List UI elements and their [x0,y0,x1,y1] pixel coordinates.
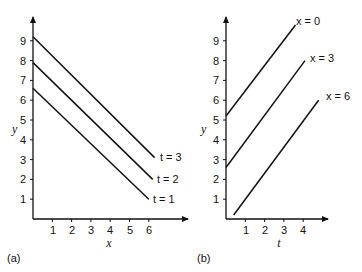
panel-a-x-tick-labels: 1 2 3 4 5 6 [50,224,152,236]
panel-b-line-label-x3: x = 3 [310,52,334,64]
tick-label: 2 [213,173,219,185]
tick-label: 9 [213,35,219,47]
tick-label: 3 [213,154,219,166]
panel-b-y-axis-label: y [200,122,207,136]
panel-b: 1 2 3 4 5 6 7 8 9 1 2 3 4 t y x = 0 x = [197,15,350,264]
panel-a-line-t2 [33,63,153,180]
tick-label: 1 [50,224,56,236]
tick-label: 3 [281,224,287,236]
panel-b-line-x6 [234,100,319,215]
tick-label: 2 [69,224,75,236]
figure: 1 2 3 4 5 6 7 8 9 1 2 3 4 5 6 x [0,0,362,272]
tick-label: 1 [20,193,26,205]
tick-label: 8 [213,55,219,67]
panel-b-line-x3 [226,61,305,168]
tick-label: 2 [20,173,26,185]
panel-a-line-label-t2: t = 2 [157,173,179,185]
tick-label: 3 [20,154,26,166]
panel-b-x-tick-labels: 1 2 3 4 [243,224,306,236]
panel-a-label: (a) [7,252,20,264]
tick-label: 3 [88,224,94,236]
tick-label: 6 [213,94,219,106]
panel-a-x-axis-label: x [105,236,112,250]
panel-b-line-label-x6: x = 6 [326,90,350,102]
tick-label: 1 [213,193,219,205]
panel-b-label: (b) [197,252,210,264]
tick-label: 4 [20,134,26,146]
tick-label: 4 [213,134,219,146]
tick-label: 9 [20,35,26,47]
tick-label: 6 [20,94,26,106]
panel-a-y-axis-label: y [11,122,18,136]
tick-label: 5 [20,114,26,126]
panel-a: 1 2 3 4 5 6 7 8 9 1 2 3 4 5 6 x [7,17,188,264]
tick-label: 4 [300,224,306,236]
panel-a-line-label-t1: t = 1 [153,193,175,205]
tick-label: 5 [213,114,219,126]
panel-a-y-tick-labels: 1 2 3 4 5 6 7 8 9 [20,35,26,206]
panel-a-line-t1 [33,88,149,199]
tick-label: 4 [107,224,113,236]
panel-b-y-tick-labels: 1 2 3 4 5 6 7 8 9 [213,35,219,206]
tick-label: 6 [146,224,152,236]
tick-label: 2 [262,224,268,236]
panel-a-line-label-t3: t = 3 [160,151,182,163]
panel-b-line-label-x0: x = 0 [296,15,320,27]
tick-label: 5 [127,224,133,236]
panel-b-line-x0 [226,25,296,116]
tick-label: 7 [20,74,26,86]
tick-label: 7 [213,74,219,86]
panel-a-line-t3 [33,37,155,158]
panel-b-x-axis-label: t [277,236,281,250]
tick-label: 8 [20,55,26,67]
tick-label: 1 [243,224,249,236]
